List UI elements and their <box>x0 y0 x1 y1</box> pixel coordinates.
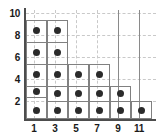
data-point-dot <box>117 90 124 97</box>
data-point-dot <box>54 71 61 78</box>
y-axis-tick-label: 2 <box>0 97 20 107</box>
cell-separator <box>26 97 47 98</box>
cell-separator <box>26 64 47 65</box>
cell-separator <box>89 86 110 87</box>
x-axis-tick-label: 5 <box>68 124 84 134</box>
y-axis-line <box>24 8 26 120</box>
x-axis-line <box>24 119 156 121</box>
y-axis-tick-label: 8 <box>0 31 20 41</box>
data-point-dot <box>54 107 61 114</box>
y-axis-tick-label: 10 <box>0 9 20 19</box>
x-axis-tick-label: 3 <box>47 124 63 134</box>
data-point-dot <box>33 88 40 95</box>
data-point-dot <box>33 49 40 56</box>
gridline-horizontal <box>26 13 156 15</box>
data-point-dot <box>96 71 103 78</box>
column-box <box>26 20 47 119</box>
data-point-dot <box>33 27 40 34</box>
cell-separator <box>68 86 89 87</box>
data-point-dot <box>75 71 82 78</box>
y-axis-tick-label: 6 <box>0 53 20 63</box>
data-point-dot <box>96 107 103 114</box>
data-point-dot <box>96 90 103 97</box>
cell-separator <box>47 86 68 87</box>
cell-separator <box>110 101 131 102</box>
dot-plot-chart: 10 8 6 4 2 1 3 5 7 9 11 <box>0 0 158 139</box>
data-point-dot <box>54 49 61 56</box>
data-point-dot <box>117 107 124 114</box>
cell-separator <box>68 101 89 102</box>
cell-separator <box>89 101 110 102</box>
data-point-dot <box>54 27 61 34</box>
x-axis-tick-label: 1 <box>26 124 42 134</box>
cell-separator <box>47 64 68 65</box>
data-point-dot <box>75 90 82 97</box>
data-point-dot <box>138 107 145 114</box>
x-axis-tick-label: 9 <box>110 124 126 134</box>
cell-separator <box>47 42 68 43</box>
x-axis-tick-label: 11 <box>131 124 147 134</box>
cell-separator <box>47 101 68 102</box>
column-box <box>47 20 68 119</box>
x-axis-tick-label: 7 <box>89 124 105 134</box>
cell-separator <box>26 42 47 43</box>
data-point-dot <box>75 107 82 114</box>
y-axis-tick-label: 4 <box>0 75 20 85</box>
data-point-dot <box>54 90 61 97</box>
data-point-dot <box>33 71 40 78</box>
data-point-dot <box>33 107 40 114</box>
cell-separator <box>26 86 47 87</box>
